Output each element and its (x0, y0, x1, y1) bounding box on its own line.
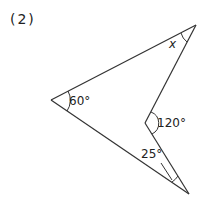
angle-x-label: x (169, 38, 176, 50)
angle-inner-label: 120° (157, 117, 186, 129)
angle-left-label: 60° (69, 95, 90, 107)
angle-bottom-label: 25° (141, 148, 162, 160)
geometry-figure (0, 0, 209, 205)
